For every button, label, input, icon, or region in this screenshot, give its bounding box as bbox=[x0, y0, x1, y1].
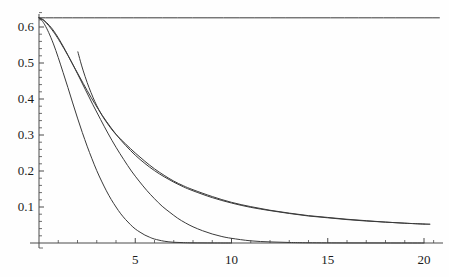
x-tick-label: 20 bbox=[404, 253, 444, 266]
series-line-slow-decay-curve bbox=[39, 18, 430, 224]
series-line-medium-decay-curve bbox=[39, 18, 424, 243]
x-tick-label: 10 bbox=[212, 253, 252, 266]
data-series-group bbox=[39, 18, 439, 243]
axis-lines bbox=[30, 14, 443, 248]
x-tick-label: 5 bbox=[115, 253, 155, 266]
y-tick-label: 0.5 bbox=[2, 56, 34, 69]
y-tick-label: 0.3 bbox=[2, 128, 34, 141]
series-line-fast-decay-curve bbox=[39, 18, 232, 243]
y-tick-label: 0.6 bbox=[2, 20, 34, 33]
y-tick-label: 0.4 bbox=[2, 92, 34, 105]
y-tick-label: 0.2 bbox=[2, 164, 34, 177]
series-line-truncated-branch-curve bbox=[78, 52, 430, 224]
y-tick-label: 0.1 bbox=[2, 200, 34, 213]
chart-container: 0.10.20.30.40.50.6 5101520 bbox=[0, 0, 449, 277]
y-axis-ticks bbox=[39, 13, 44, 248]
x-tick-label: 15 bbox=[308, 253, 348, 266]
plot-canvas bbox=[0, 0, 449, 277]
